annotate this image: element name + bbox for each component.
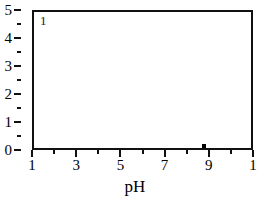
- y-tick-minor: [17, 51, 21, 53]
- x-tick-minor: [186, 150, 188, 154]
- y-tick-label: 1: [5, 115, 13, 130]
- chart-figure: 1 543210 135791 pH: [0, 0, 270, 205]
- x-tick-major: [75, 150, 77, 157]
- y-tick-minor: [17, 23, 21, 25]
- plot-area: 1: [32, 10, 253, 150]
- y-tick-label: 3: [5, 59, 13, 74]
- x-tick-label: 9: [205, 158, 213, 173]
- x-tick-major: [31, 150, 33, 157]
- x-axis-title: pH: [0, 178, 270, 195]
- y-tick-major: [14, 9, 21, 11]
- x-tick-major: [252, 150, 254, 157]
- x-tick-major: [208, 150, 210, 157]
- x-tick-major: [164, 150, 166, 157]
- x-tick-major: [119, 150, 121, 157]
- y-tick-minor: [17, 107, 21, 109]
- data-point: [202, 144, 206, 148]
- x-tick-minor: [97, 150, 99, 154]
- x-tick-minor: [230, 150, 232, 154]
- y-tick-minor: [17, 79, 21, 81]
- y-tick-major: [14, 65, 21, 67]
- y-tick-major: [14, 121, 21, 123]
- x-tick-minor: [53, 150, 55, 154]
- x-tick-label: 3: [72, 158, 80, 173]
- x-tick-label: 1: [249, 158, 257, 173]
- y-tick-label: 4: [5, 31, 13, 46]
- y-tick-major: [14, 37, 21, 39]
- x-tick-label: 7: [161, 158, 169, 173]
- y-tick-label: 5: [5, 3, 13, 18]
- x-tick-label: 5: [117, 158, 125, 173]
- data-point-layer: [34, 12, 251, 148]
- x-tick-label: 1: [28, 158, 36, 173]
- y-tick-major: [14, 93, 21, 95]
- y-tick-minor: [17, 135, 21, 137]
- x-tick-minor: [142, 150, 144, 154]
- y-tick-label: 2: [5, 87, 13, 102]
